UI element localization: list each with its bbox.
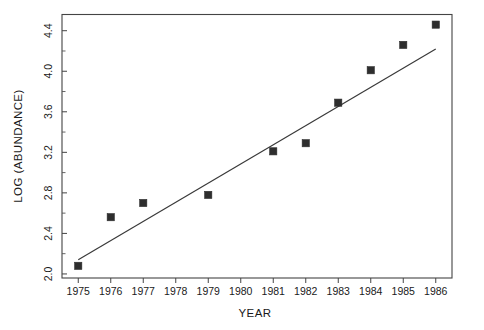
x-tick-label: 1983: [327, 285, 351, 297]
data-point-marker: [432, 21, 439, 28]
y-tick-label: 2.0: [42, 266, 54, 281]
x-tick-label: 1978: [164, 285, 188, 297]
x-axis-title: YEAR: [239, 307, 272, 319]
x-tick-label: 1976: [99, 285, 123, 297]
scatter-plot: 2.02.42.83.23.64.04.4 197519761977197819…: [0, 0, 484, 330]
data-point-marker: [335, 99, 342, 106]
x-tick-label: 1985: [392, 285, 416, 297]
x-tick-label: 1982: [294, 285, 318, 297]
y-tick-label: 3.2: [42, 145, 54, 160]
data-point-marker: [367, 67, 374, 74]
data-point-marker: [107, 214, 114, 221]
x-tick-label: 1975: [67, 285, 91, 297]
data-point-marker: [75, 262, 82, 269]
x-tick-label: 1977: [132, 285, 156, 297]
data-point-marker: [270, 148, 277, 155]
data-point-marker: [205, 191, 212, 198]
x-tick-label: 1979: [197, 285, 221, 297]
y-tick-label: 2.4: [42, 226, 54, 241]
x-tick-label: 1981: [262, 285, 286, 297]
x-tick-label: 1984: [359, 285, 383, 297]
y-tick-label: 2.8: [42, 185, 54, 200]
x-tick-label: 1980: [229, 285, 253, 297]
chart-figure: 2.02.42.83.23.64.04.4 197519761977197819…: [0, 0, 484, 330]
figure-background: [0, 0, 484, 330]
data-point-marker: [302, 140, 309, 147]
y-tick-label: 3.6: [42, 104, 54, 119]
y-tick-label: 4.4: [42, 23, 54, 38]
data-point-marker: [140, 199, 147, 206]
y-axis-title: LOG (ABUNDANCE): [12, 89, 24, 202]
x-tick-label: 1986: [424, 285, 448, 297]
y-tick-label: 4.0: [42, 64, 54, 79]
data-point-marker: [400, 41, 407, 48]
